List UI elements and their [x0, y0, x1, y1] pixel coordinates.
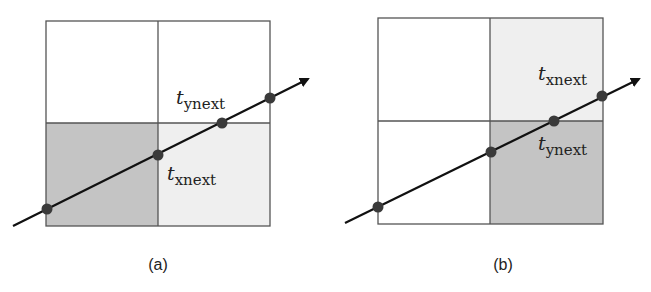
- cell-bottom-right: [490, 121, 603, 224]
- ray-grid-traversal-figure: tynext txnext (a) txnext tynext (b): [0, 0, 651, 292]
- panel-a: tynext txnext (a): [13, 21, 308, 273]
- intersection-point: [153, 150, 164, 161]
- cell-bottom-left: [378, 121, 490, 224]
- intersection-point: [42, 204, 53, 215]
- cell-top-left: [46, 21, 158, 123]
- caption-a: (a): [148, 256, 168, 273]
- intersection-point: [486, 147, 497, 158]
- panel-b: txnext tynext (b): [345, 18, 639, 273]
- intersection-point: [265, 93, 276, 104]
- intersection-point: [373, 202, 384, 213]
- caption-b: (b): [493, 256, 513, 273]
- cell-top-left: [378, 18, 490, 121]
- cell-bottom-left: [46, 123, 158, 226]
- intersection-point: [217, 118, 228, 129]
- intersection-point: [597, 91, 608, 102]
- intersection-point: [549, 116, 560, 127]
